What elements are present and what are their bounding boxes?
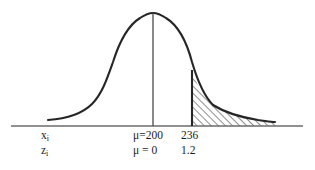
x-variable-label: xi — [41, 129, 49, 141]
z-variable-label: zi — [41, 144, 48, 156]
normal-distribution-figure: xi μ=200 236 zi μ = 0 1.2 — [0, 0, 315, 170]
x-cutoff-label: 236 — [181, 129, 198, 141]
z-cutoff-label: 1.2 — [181, 144, 195, 156]
x-mean-label: μ=200 — [133, 129, 163, 141]
z-mean-label: μ = 0 — [133, 144, 157, 156]
bell-curve-path — [48, 13, 275, 122]
